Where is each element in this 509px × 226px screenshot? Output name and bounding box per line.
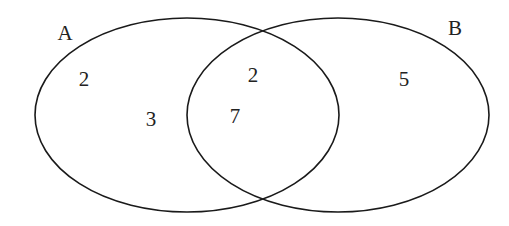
region-a-only-value-2: 3 bbox=[146, 107, 157, 131]
region-intersection-value-1: 2 bbox=[248, 63, 259, 87]
region-b-only-value: 5 bbox=[399, 67, 410, 91]
set-a-label: A bbox=[57, 21, 73, 45]
set-b-label: B bbox=[448, 16, 462, 40]
region-intersection-value-2: 7 bbox=[230, 104, 241, 128]
venn-diagram: A B 2 3 2 7 5 bbox=[0, 0, 509, 226]
region-a-only-value-1: 2 bbox=[79, 67, 90, 91]
